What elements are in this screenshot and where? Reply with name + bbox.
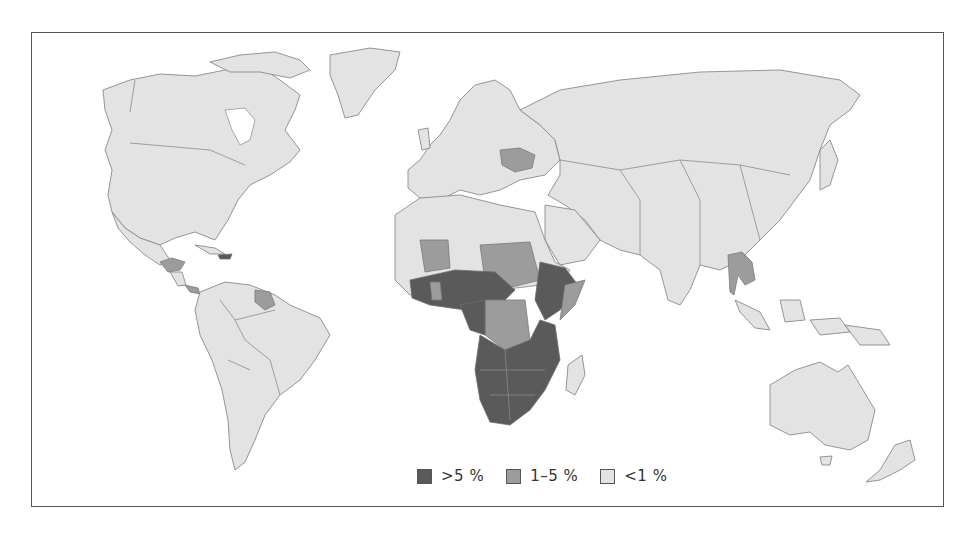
legend-item-low: <1 % (600, 467, 667, 485)
region-ghana[interactable] (430, 282, 442, 300)
region-nicaragua-costa-rica (170, 272, 186, 286)
region-tasmania (820, 456, 832, 465)
region-mali[interactable] (420, 240, 450, 272)
region-haiti[interactable] (218, 254, 232, 259)
region-thailand-cambodia[interactable] (728, 252, 755, 295)
region-greenland[interactable] (330, 48, 400, 118)
region-japan (820, 140, 838, 190)
region-panama[interactable] (185, 285, 200, 294)
legend-swatch-high (417, 469, 432, 484)
legend-label-low: <1 % (624, 467, 667, 485)
region-cuba (195, 245, 225, 254)
legend-swatch-mid (506, 469, 521, 484)
region-europe[interactable] (408, 80, 560, 200)
region-central-west-africa[interactable] (460, 300, 485, 335)
region-new-zealand (866, 440, 915, 482)
legend: >5 % 1–5 % <1 % (417, 465, 689, 487)
world-map (0, 0, 978, 534)
legend-item-mid: 1–5 % (506, 467, 578, 485)
legend-swatch-low (600, 469, 615, 484)
legend-item-high: >5 % (417, 467, 484, 485)
region-asia[interactable] (520, 70, 860, 305)
legend-label-high: >5 % (441, 467, 484, 485)
region-south-america[interactable] (195, 282, 330, 470)
region-uk (418, 128, 430, 150)
region-australia[interactable] (770, 362, 875, 450)
legend-label-mid: 1–5 % (530, 467, 578, 485)
region-madagascar (566, 355, 585, 395)
region-indonesia (735, 300, 850, 335)
region-papua (845, 325, 890, 345)
